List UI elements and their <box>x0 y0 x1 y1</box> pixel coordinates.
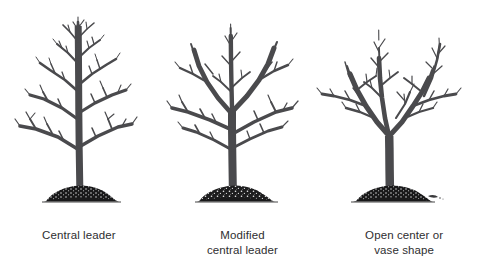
soil-mound-icon <box>42 185 121 202</box>
panel-captions: Central leader Modified central leader O… <box>0 228 483 278</box>
caption-open-center-vase: Open center or vase shape <box>321 228 483 258</box>
soil-mound-icon <box>351 185 435 202</box>
bare-tree-modified-central-leader-icon <box>167 24 298 200</box>
caption-modified-central-leader: Modified central leader <box>164 228 322 258</box>
ink-speck-artifact <box>428 195 444 200</box>
caption-central-leader: Central leader <box>0 228 164 243</box>
tree-training-systems-figure: Central leader Modified central leader O… <box>0 0 483 278</box>
soil-mound-icon <box>195 185 278 202</box>
bare-tree-central-leader-icon <box>15 17 137 200</box>
bare-tree-open-center-vase-icon <box>317 30 461 200</box>
